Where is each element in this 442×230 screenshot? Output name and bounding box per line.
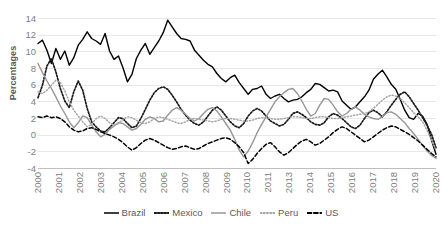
legend-item-mexico[interactable]: Mexico xyxy=(154,208,202,218)
series-line-us xyxy=(38,116,436,164)
legend-label: Chile xyxy=(229,208,251,218)
legend-swatch-us-icon xyxy=(307,208,322,218)
series-lines xyxy=(38,20,436,163)
legend-label: US xyxy=(325,208,338,218)
chart-legend: BrazilMexicoChilePeruUS xyxy=(0,208,442,218)
legend-item-brazil[interactable]: Brazil xyxy=(104,208,146,218)
legend-item-peru[interactable]: Peru xyxy=(260,208,298,218)
series-line-peru xyxy=(38,80,436,150)
legend-swatch-peru-icon xyxy=(260,208,275,218)
legend-label: Brazil xyxy=(122,208,146,218)
legend-item-us[interactable]: US xyxy=(307,208,338,218)
legend-swatch-mexico-icon xyxy=(154,208,169,218)
inflation-line-chart: Percentages 14121086420-2-4 200020012002… xyxy=(0,0,442,230)
plot-area xyxy=(0,0,442,230)
legend-label: Mexico xyxy=(172,208,202,218)
legend-swatch-chile-icon xyxy=(211,208,226,218)
legend-item-chile[interactable]: Chile xyxy=(211,208,251,218)
legend-swatch-brazil-icon xyxy=(104,208,119,218)
legend-label: Peru xyxy=(278,208,298,218)
